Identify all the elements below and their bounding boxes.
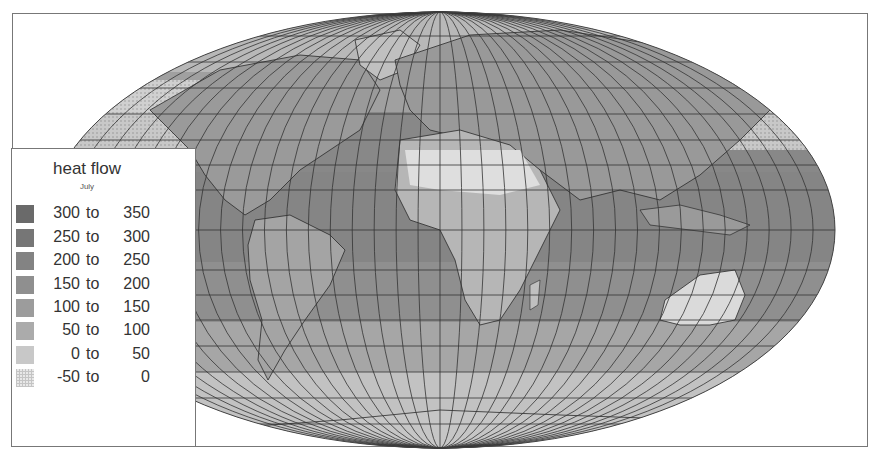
legend-hi: 50 — [108, 345, 150, 363]
legend-hi: 250 — [108, 251, 150, 269]
legend-lo: -50 — [38, 368, 80, 386]
legend-hi: 150 — [108, 298, 150, 316]
legend-lo: 150 — [38, 275, 80, 293]
legend-swatch — [16, 299, 34, 317]
legend-lo: 100 — [38, 298, 80, 316]
legend-swatch — [16, 322, 34, 340]
legend-to: to — [86, 251, 99, 269]
legend-lo: 50 — [38, 321, 80, 339]
legend-to: to — [86, 345, 99, 363]
legend-swatch — [16, 229, 34, 247]
legend-swatch — [16, 205, 34, 223]
legend-item: -50 to 0 — [16, 367, 186, 387]
legend-item: 300 to 350 — [16, 203, 186, 223]
legend-to: to — [86, 298, 99, 316]
legend-hi: 0 — [108, 368, 150, 386]
legend-lo: 300 — [38, 204, 80, 222]
legend-to: to — [86, 228, 99, 246]
legend-item: 150 to 200 — [16, 274, 186, 294]
legend-title: heat flow — [12, 159, 162, 179]
legend-lo: 200 — [38, 251, 80, 269]
legend-hi: 350 — [108, 204, 150, 222]
legend-lo: 0 — [38, 345, 80, 363]
legend-swatch — [16, 276, 34, 294]
legend-to: to — [86, 368, 99, 386]
legend-swatch — [16, 346, 34, 364]
legend-lo: 250 — [38, 228, 80, 246]
legend-subtitle: July — [12, 182, 162, 191]
legend-to: to — [86, 321, 99, 339]
legend-item: 50 to 100 — [16, 320, 186, 340]
legend-hi: 200 — [108, 275, 150, 293]
legend-to: to — [86, 204, 99, 222]
legend-to: to — [86, 275, 99, 293]
legend-item: 100 to 150 — [16, 297, 186, 317]
legend-swatch — [16, 369, 34, 387]
legend-item: 250 to 300 — [16, 227, 186, 247]
legend-item: 0 to 50 — [16, 344, 186, 364]
legend-hi: 300 — [108, 228, 150, 246]
legend-item: 200 to 250 — [16, 250, 186, 270]
legend: heat flow July 300 to 350 250 to 300 200… — [11, 148, 196, 447]
legend-hi: 100 — [108, 321, 150, 339]
legend-swatch — [16, 252, 34, 270]
